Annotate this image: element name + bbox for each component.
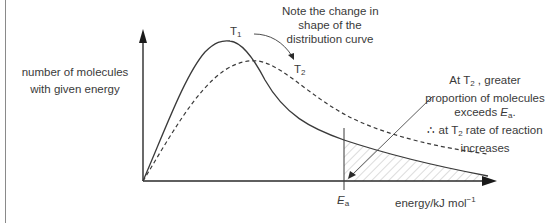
y-axis-arrow-icon — [139, 29, 147, 43]
annotation-line1: At T2 , greater — [415, 73, 555, 91]
y-axis — [139, 29, 147, 181]
annotation-line3: exceeds Ea. — [415, 105, 555, 123]
note-line2: shape of the — [282, 18, 378, 32]
annotation-line4: ∴ at T2 rate of reaction — [415, 123, 555, 141]
note-line3: distribution curve — [282, 32, 378, 46]
note-arrowhead-icon — [288, 53, 294, 60]
x-axis-label: energy/kJ mol−1 — [395, 193, 476, 210]
annotation-line5: increases — [415, 141, 555, 155]
note-text: Note the change in shape of the distribu… — [282, 4, 378, 46]
annotation-line2: proportion of molecules — [415, 91, 555, 105]
t2-label: T2 — [294, 62, 305, 80]
note-line1: Note the change in — [282, 4, 378, 18]
x-axis-arrow-icon — [482, 176, 497, 186]
y-axis-label-line1: number of molecules — [20, 65, 130, 79]
annotation-text: At T2 , greater proportion of molecules … — [415, 73, 555, 155]
y-axis-label-line2: with given energy — [20, 82, 130, 96]
t1-label: T1 — [230, 24, 241, 42]
ea-label: Ea — [337, 193, 349, 211]
y-axis-label: number of molecules with given energy — [20, 65, 130, 96]
